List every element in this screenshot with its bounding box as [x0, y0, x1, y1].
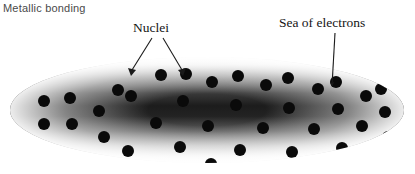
nucleus-dot — [282, 72, 294, 84]
nucleus-dot — [230, 99, 242, 111]
nucleus-dot — [89, 160, 101, 172]
nucleus-dot — [336, 142, 348, 154]
nucleus-dot — [308, 123, 320, 135]
nucleus-dot — [64, 92, 76, 104]
nucleus-dot — [125, 90, 137, 102]
nucleus-dot — [234, 144, 246, 156]
nucleus-dot — [38, 95, 50, 107]
nucleus-dot — [232, 70, 244, 82]
nucleus-dot — [122, 145, 134, 157]
nucleus-dot — [256, 163, 268, 174]
nucleus-dot — [93, 105, 105, 117]
nucleus-dot — [202, 120, 214, 132]
nucleus-dot — [307, 157, 319, 169]
nucleus-dot — [332, 103, 344, 115]
nucleus-dot — [356, 120, 368, 132]
nucleus-dot — [354, 150, 366, 162]
nucleus-dot — [174, 141, 186, 153]
nucleus-dot — [379, 106, 391, 118]
nucleus-dot — [112, 84, 124, 96]
nucleus-dot — [205, 158, 217, 170]
nucleus-dot — [360, 90, 372, 102]
nucleus-dot — [154, 163, 166, 174]
nucleus-dot — [286, 146, 298, 158]
nucleus-dot — [38, 118, 50, 130]
nucleus-dot — [312, 83, 324, 95]
nucleus-dot — [260, 79, 272, 91]
nucleus-dot — [66, 118, 78, 130]
nucleus-dot — [150, 117, 162, 129]
nucleus-dot — [375, 83, 387, 95]
nucleus-dot — [98, 131, 110, 143]
nucleus-dot — [257, 122, 269, 134]
nucleus-dot — [177, 95, 189, 107]
nucleus-dot — [206, 76, 218, 88]
nucleus-dot — [382, 131, 394, 143]
nucleus-dot — [155, 69, 167, 81]
metallic-bonding-figure: Metallic bonding Nuclei Sea of electrons — [0, 0, 415, 174]
metallic-bonding-diagram — [0, 0, 415, 174]
nucleus-dot — [283, 102, 295, 114]
